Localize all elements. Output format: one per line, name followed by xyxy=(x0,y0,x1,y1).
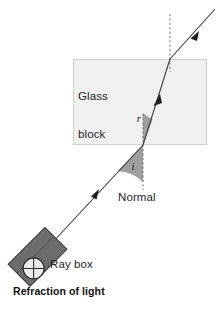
glass-block-label: Glass block xyxy=(78,64,108,167)
refraction-diagram: r i Glass block Normal Ray box Refractio… xyxy=(0,0,217,310)
glass-block-label-line-2: block xyxy=(78,128,108,141)
angle-of-incidence-wedge xyxy=(118,145,144,182)
angle-of-refraction-label: r xyxy=(137,112,142,124)
angle-of-incidence-label: i xyxy=(131,160,134,172)
emergent-ray xyxy=(170,9,215,59)
glass-block-label-line-1: Glass xyxy=(78,90,108,103)
normal-label: Normal xyxy=(118,191,156,204)
emergent-ray-arrowhead xyxy=(191,31,200,41)
diagram-canvas: r i xyxy=(0,0,217,310)
ray-box-label: Ray box xyxy=(50,258,93,271)
figure-caption: Refraction of light xyxy=(13,286,105,298)
